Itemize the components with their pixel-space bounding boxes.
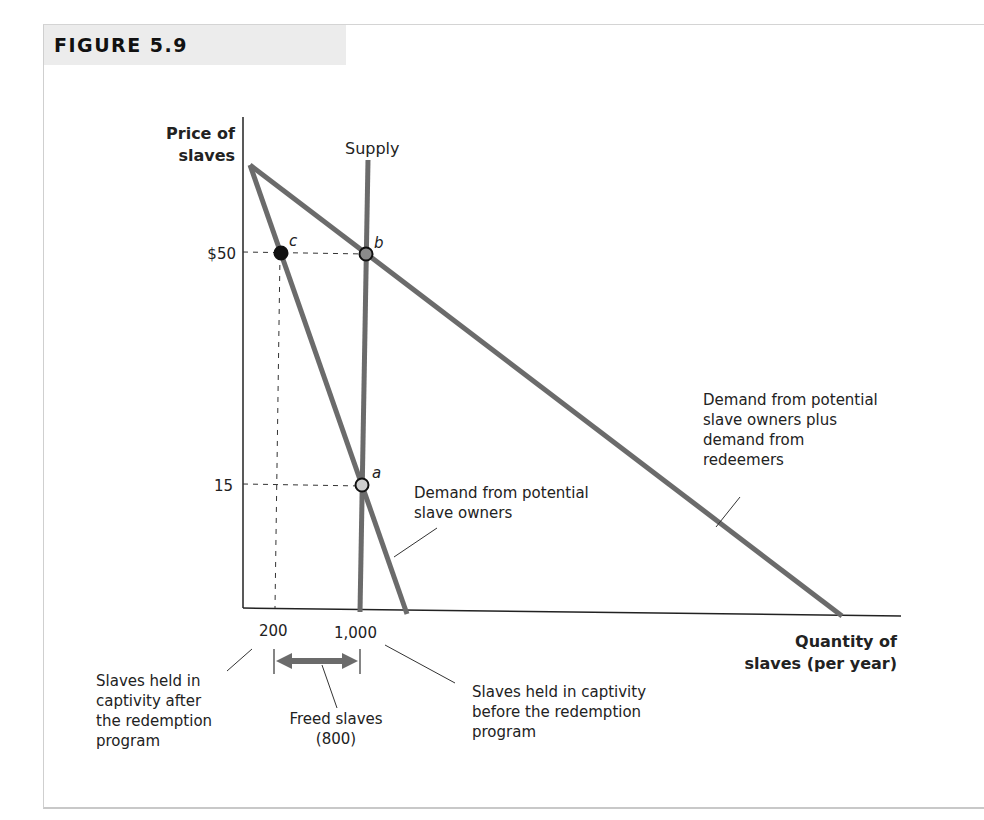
tick-1000: 1,000: [334, 624, 377, 642]
after-label-4: program: [96, 732, 160, 750]
x-axis-label-1: Quantity of: [795, 632, 898, 651]
demand-owners-curve: [250, 165, 407, 614]
demand-owners-label-1: Demand from potential: [414, 484, 589, 502]
before-label-1: Slaves held in captivity: [472, 683, 646, 701]
y-axis-label-2: slaves: [178, 146, 235, 165]
arrow-left-icon: [276, 653, 292, 669]
point-c: [275, 247, 288, 260]
point-b: [360, 248, 373, 261]
guide-200: [275, 254, 280, 608]
after-label-1: Slaves held in: [96, 672, 200, 690]
before-label-3: program: [472, 723, 536, 741]
tick-50: $50: [207, 245, 236, 263]
x-axis-label-2: slaves (per year): [744, 654, 897, 673]
leader-owners: [394, 528, 437, 557]
supply-curve: [360, 160, 368, 612]
demand-total-label-4: redeemers: [703, 451, 784, 469]
after-label-2: captivity after: [96, 692, 202, 710]
point-c-label: c: [289, 232, 298, 250]
before-label-2: before the redemption: [472, 703, 641, 721]
tick-200: 200: [259, 622, 288, 640]
point-a-label: a: [372, 464, 381, 482]
demand-total-label-3: demand from: [703, 431, 804, 449]
demand-owners-label-2: slave owners: [414, 504, 512, 522]
guide-15: [243, 484, 362, 486]
y-axis-label-1: Price of: [166, 124, 236, 143]
after-label-3: the redemption: [96, 712, 212, 730]
demand-total-label-2: slave owners plus: [703, 411, 837, 429]
leader-total: [716, 497, 740, 527]
freed-label-1: Freed slaves: [289, 710, 382, 728]
leader-after: [227, 649, 252, 671]
point-b-label: b: [374, 234, 384, 252]
leader-freed: [322, 665, 337, 708]
tick-15: 15: [214, 477, 233, 495]
arrow-right-icon: [342, 653, 358, 669]
point-a: [356, 479, 369, 492]
guide-50: [243, 252, 366, 254]
x-axis: [243, 608, 901, 616]
freed-label-2: (800): [316, 730, 356, 748]
demand-total-label-1: Demand from potential: [703, 391, 878, 409]
leader-before: [385, 645, 455, 683]
supply-label: Supply: [345, 139, 400, 158]
